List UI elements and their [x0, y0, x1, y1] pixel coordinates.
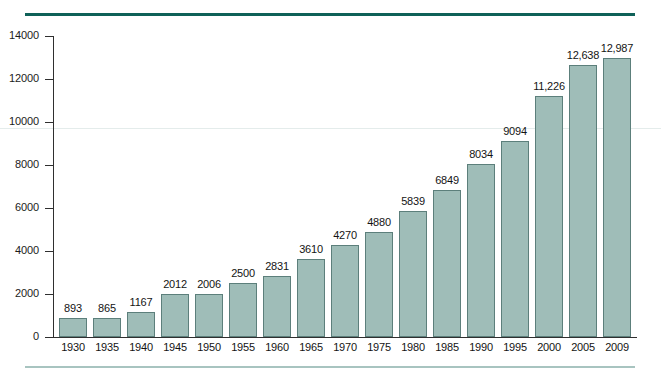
bar	[365, 232, 393, 337]
bar-value-label: 1167	[115, 297, 167, 308]
bar-value-label: 6849	[421, 175, 473, 186]
y-axis-tick-label: 4000	[0, 245, 39, 256]
bar-value-label: 2831	[251, 261, 303, 272]
bar-chart: 02000400060008000100001200014000 1930193…	[0, 0, 661, 384]
bar	[501, 141, 529, 337]
bar	[331, 245, 359, 337]
y-axis-tick-label: 0	[0, 331, 39, 342]
x-axis-line	[53, 337, 637, 338]
y-axis-tick-label: 10000	[0, 116, 39, 127]
bar-value-label: 11,226	[523, 81, 575, 92]
bar-value-label: 4270	[319, 230, 371, 241]
bar	[467, 164, 495, 337]
y-axis-tick-label: 6000	[0, 202, 39, 213]
bar	[399, 211, 427, 337]
bottom-decorative-rule	[25, 366, 635, 368]
x-axis-tick-label: 2009	[597, 341, 637, 353]
bar-value-label: 12,987	[591, 43, 643, 54]
bar	[127, 312, 155, 337]
bar	[195, 294, 223, 337]
bar-value-label: 8034	[455, 149, 507, 160]
bar	[93, 318, 121, 337]
bar	[263, 276, 291, 337]
y-axis-tick-label: 2000	[0, 288, 39, 299]
bar-value-label: 9094	[489, 126, 541, 137]
bar	[229, 283, 257, 337]
bar-value-label: 5839	[387, 196, 439, 207]
bar-value-label: 2006	[183, 279, 235, 290]
bar	[603, 58, 631, 337]
bar	[59, 318, 87, 337]
bar	[569, 65, 597, 337]
y-axis-tick-label: 8000	[0, 159, 39, 170]
y-axis-tick-label: 12000	[0, 73, 39, 84]
bar-value-label: 4880	[353, 217, 405, 228]
bar-value-label: 3610	[285, 244, 337, 255]
bar	[433, 190, 461, 337]
y-axis-tick-label: 14000	[0, 30, 39, 41]
